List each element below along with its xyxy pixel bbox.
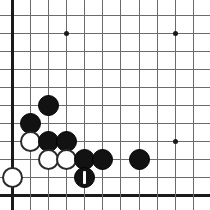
grid-line-vertical bbox=[139, 0, 140, 210]
grid-line-horizontal bbox=[0, 51, 210, 52]
grid-line-horizontal bbox=[0, 15, 210, 16]
grid-line-vertical bbox=[157, 0, 158, 210]
stone-black-c7r8[interactable] bbox=[129, 149, 150, 170]
grid-line-vertical bbox=[193, 0, 194, 210]
last-move-marker bbox=[83, 171, 86, 184]
grid-line-horizontal bbox=[0, 105, 210, 106]
grid-line-vertical bbox=[30, 0, 31, 210]
star-point-upper-left bbox=[64, 31, 69, 36]
stone-black-c2r5[interactable] bbox=[38, 95, 59, 116]
stone-black-c5r8[interactable] bbox=[92, 149, 113, 170]
grid-line-horizontal bbox=[0, 177, 210, 178]
grid-line-horizontal bbox=[0, 33, 210, 34]
grid-line-vertical bbox=[102, 0, 103, 210]
grid-line-vertical bbox=[120, 0, 121, 210]
star-point-lower-right bbox=[173, 139, 178, 144]
grid-line-horizontal bbox=[0, 69, 210, 70]
stone-white-c0r9[interactable] bbox=[2, 167, 23, 188]
star-point-upper-right bbox=[173, 31, 178, 36]
grid-line-horizontal bbox=[0, 87, 210, 88]
go-board bbox=[0, 0, 210, 210]
board-edge-line-bottom bbox=[0, 194, 210, 197]
